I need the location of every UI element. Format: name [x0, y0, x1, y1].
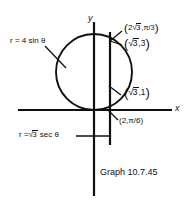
point-top-leader-line	[110, 31, 122, 41]
polar-graph-figure: y x r = 4 sin θ (2√3,π/3) (√3,3) (√3,1) …	[0, 0, 190, 210]
circle-equation-label: r = 4 sin θ	[10, 37, 45, 45]
point-label-sqrt3-3: (√3,3)	[124, 38, 150, 48]
paren-open: (	[124, 21, 128, 34]
radicand: 3	[32, 130, 37, 139]
equation-prefix: r =	[19, 130, 29, 139]
paren-close: )	[145, 85, 149, 100]
paren-open: (	[124, 36, 128, 51]
paren-open: (	[124, 85, 128, 100]
y-axis-label: y	[88, 14, 93, 23]
figure-caption: Graph 10.7.45	[100, 168, 158, 177]
point-label-2-pi-over-6: (2,π/6)	[119, 117, 143, 125]
point-label-2sqrt3-pi-over-3: (2√3,π/3)	[124, 23, 159, 32]
equation-suffix: sec θ	[40, 130, 59, 139]
point-label-sqrt3-1: (√3,1)	[124, 87, 150, 97]
paren-close: )	[155, 21, 159, 34]
x-axis-label: x	[175, 104, 180, 113]
vertical-line-equation-label: r =√3 sec θ	[19, 130, 59, 139]
paren-close: )	[145, 36, 149, 51]
graph-canvas	[0, 0, 190, 210]
coordinate-rest: ,π/3	[141, 23, 154, 32]
